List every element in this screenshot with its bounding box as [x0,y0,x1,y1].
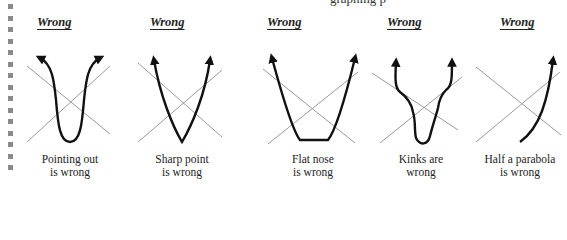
caption-line: Pointing out [15,153,125,166]
caption-line: Flat nose [258,153,368,166]
panel-2-caption: Sharp point is wrong [127,153,237,179]
panel-4-caption: Kinks are wrong [366,153,476,179]
caption-line: Sharp point [127,153,237,166]
panel-5-diagram [476,60,561,142]
caption-line: Half a parabola [470,153,567,166]
caption-line: Kinks are [366,153,476,166]
caption-line: is wrong [258,166,368,179]
panel-5-caption: Half a parabola is wrong [470,153,567,179]
panel-1-caption: Pointing out is wrong [15,153,125,179]
panel-1-diagram [27,58,110,142]
caption-line: is wrong [15,166,125,179]
panel-2-diagram [138,60,222,142]
panel-4-diagram [372,62,462,143]
caption-line: is wrong [127,166,237,179]
caption-line: is wrong [470,166,567,179]
panel-3-caption: Flat nose is wrong [258,153,368,179]
panel-3-diagram [263,58,358,144]
caption-line: wrong [366,166,476,179]
